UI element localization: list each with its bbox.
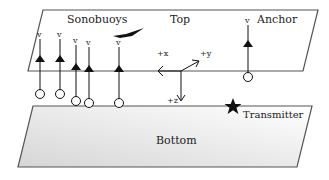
top-label: Top [170,13,190,26]
bottom-label: Bottom [156,134,197,147]
y-axis-label: +y [200,49,212,58]
hydrophone-symbol: v [244,16,250,25]
sonobuoys-label: Sonobuoys [67,13,128,26]
top-plane: Top Sonobuoys Anchor [28,10,318,71]
transmitter-label: Transmitter [243,109,304,120]
z-axis-label: +z [167,96,178,105]
hydrophone-symbol: v [36,30,42,39]
hydrophone-symbol: v [115,38,121,47]
sonobuoy-diagram: Bottom Top Sonobuoys Anchor v v v [0,0,329,180]
x-axis-label: +x [157,49,169,58]
anchor-label: Anchor [256,13,298,26]
hydrophone-symbol: v [56,30,62,39]
hydrophone-symbol: v [85,38,91,47]
hydrophone-symbol: v [72,36,78,45]
